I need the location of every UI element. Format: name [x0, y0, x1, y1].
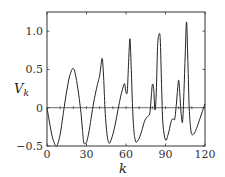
plot-frame — [47, 12, 205, 146]
line-chart: 0306090120−0.500.51.0 k Vk — [0, 0, 225, 177]
y-tick-label: −0.5 — [16, 140, 43, 153]
y-axis-label-subscript: k — [23, 88, 28, 98]
zero-line — [47, 106, 205, 109]
y-tick-label: 1.0 — [26, 25, 44, 38]
series-line — [47, 22, 205, 146]
x-axis-label: k — [119, 161, 127, 176]
y-axis-label: Vk — [14, 81, 29, 98]
y-tick-label: 0.5 — [26, 63, 44, 76]
x-tick-label: 120 — [195, 148, 216, 161]
x-tick-label: 60 — [119, 148, 133, 161]
plot-border — [47, 12, 205, 146]
x-tick-label: 0 — [44, 148, 51, 161]
series-vk — [47, 22, 205, 146]
x-tick-label: 30 — [80, 148, 94, 161]
y-tick-label: 0 — [36, 102, 43, 115]
x-tick-label: 90 — [159, 148, 173, 161]
